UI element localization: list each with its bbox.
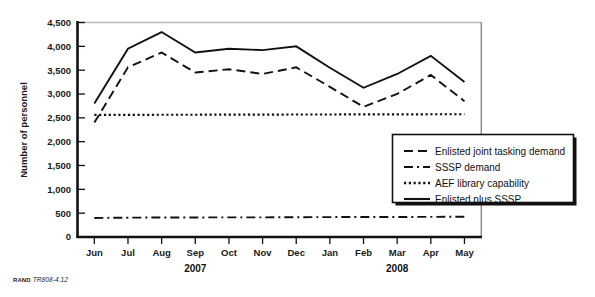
x-tick-label: Oct: [221, 247, 238, 258]
x-axis-group-label: 2007: [184, 263, 207, 274]
y-tick-label: 2,000: [47, 136, 71, 147]
figure-code-label: TR808-4.12: [33, 276, 68, 283]
legend-label-enlisted-joint-tasking-demand: Enlisted joint tasking demand: [435, 146, 565, 157]
y-tick-label: 4,000: [47, 41, 71, 52]
y-tick-label: 1,500: [47, 160, 71, 171]
x-axis-tick-labels: JunJulAugSepOctNovDecJanFebMarAprMay: [86, 247, 475, 258]
y-tick-label: 3,500: [47, 65, 71, 76]
x-tick-label: Feb: [355, 247, 372, 258]
legend-label-aef-library-capability: AEF library capability: [435, 178, 529, 189]
legend-label-enlisted-plus-sssp: Enlisted plus SSSP: [435, 194, 521, 205]
x-tick-label: Sep: [187, 247, 205, 258]
x-tick-label: May: [455, 247, 474, 258]
legend-label-sssp-demand: SSSP demand: [435, 162, 500, 173]
chart-figure: 05001,0001,5002,0002,5003,0003,5004,0004…: [0, 0, 595, 297]
series-line-sssp-demand: [94, 217, 464, 218]
x-tick-label: Nov: [254, 247, 273, 258]
series-line-enlisted-plus-sssp: [94, 32, 464, 104]
x-tick-label: Aug: [152, 247, 171, 258]
y-tick-label: 0: [66, 231, 71, 242]
x-tick-label: Dec: [288, 247, 305, 258]
y-tick-label: 500: [55, 208, 71, 219]
y-tick-label: 4,500: [47, 17, 71, 28]
x-tick-label: Jul: [121, 247, 135, 258]
figure-source-note: RAND TR808-4.12: [13, 276, 68, 283]
y-tick-label: 2,500: [47, 112, 71, 123]
x-tick-label: Mar: [389, 247, 406, 258]
x-axis-group-label: 2008: [386, 263, 409, 274]
x-axis-group-labels: 20072008: [184, 263, 409, 274]
x-tick-label: Jun: [86, 247, 103, 258]
y-axis-title: Number of personnel: [18, 82, 29, 178]
x-tick-label: Jan: [322, 247, 339, 258]
y-tick-label: 3,000: [47, 88, 71, 99]
rand-brand-label: RAND: [13, 277, 31, 283]
line-chart: 05001,0001,5002,0002,5003,0003,5004,0004…: [0, 0, 595, 297]
series-line-enlisted-joint-tasking-demand: [94, 53, 464, 123]
series-line-aef-library-capability: [94, 114, 464, 115]
chart-legend: Enlisted joint tasking demandSSSP demand…: [393, 135, 577, 206]
x-tick-label: Apr: [423, 247, 440, 258]
y-axis-tick-labels: 05001,0001,5002,0002,5003,0003,5004,0004…: [47, 17, 71, 243]
y-tick-label: 1,000: [47, 184, 71, 195]
